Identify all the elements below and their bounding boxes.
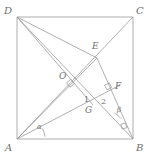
angle-label-2: 2: [101, 98, 106, 106]
right-angle-at-B-icon: [121, 123, 127, 129]
segment-A-to-F: [17, 85, 120, 139]
geometry-canvas: [0, 0, 151, 160]
geometry-figure: D C A B E O F G α β 1 2: [0, 0, 151, 160]
segment-D-to-E: [17, 17, 97, 58]
point-label-G: G: [85, 106, 92, 115]
vertex-label-B: B: [136, 143, 143, 153]
angle-alpha-arc: [43, 129, 46, 137]
point-label-F: F: [115, 82, 121, 91]
angle-label-1: 1: [84, 96, 89, 104]
point-label-O: O: [59, 72, 66, 81]
vertex-label-D: D: [4, 6, 12, 16]
vertex-label-A: A: [5, 143, 12, 153]
angle-arcs: [43, 113, 122, 137]
angle-label-alpha: α: [37, 124, 42, 131]
point-label-E: E: [92, 42, 99, 51]
vertex-label-C: C: [136, 6, 144, 16]
internal-segments: [17, 17, 133, 139]
angle-label-beta: β: [117, 107, 121, 114]
segment-D-to-G: [17, 17, 93, 105]
